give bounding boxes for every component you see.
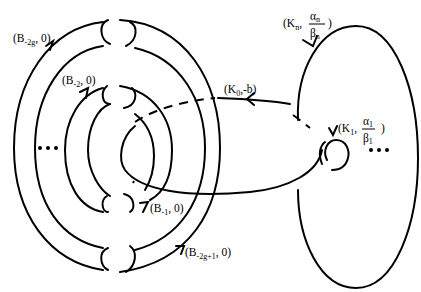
svg-text:αn: αn	[310, 10, 320, 24]
bottom-clasp-right	[126, 246, 135, 272]
k0-dashed-segment	[135, 98, 215, 122]
k0-dash-mark	[133, 181, 134, 183]
third-loop-left-arc	[65, 88, 103, 212]
label-b-neg2g1: (B-2g+1, 0)	[185, 246, 231, 261]
label-kn: (Kn, αn βn )	[283, 10, 332, 41]
left-ellipsis	[38, 146, 58, 150]
svg-text:): )	[328, 17, 332, 30]
outer-loop-left-arc	[14, 22, 103, 270]
fourth-loop-left-arc	[88, 104, 110, 196]
outer-link-components	[14, 20, 220, 272]
label-k1: (K1, α1 β1 )	[338, 115, 385, 146]
svg-text:): )	[381, 122, 385, 135]
k1-direction-arrow	[329, 126, 337, 135]
surgery-diagram: (B-2g, 0) (B-2, 0) (B-1, 0) (B-2g+1, 0) …	[0, 0, 421, 292]
k1-loop	[325, 140, 348, 170]
b-neg2-arrow	[80, 88, 88, 98]
svg-text:α1: α1	[363, 115, 373, 129]
svg-text:β1: β1	[363, 132, 373, 146]
top-clasp-left	[101, 20, 110, 44]
svg-text:βn: βn	[310, 27, 320, 41]
inner-top-clasp-right	[124, 88, 135, 108]
inner-bottom-clasp-left	[103, 196, 108, 212]
svg-text:(K1,: (K1,	[338, 122, 357, 137]
svg-text:(Kn,: (Kn,	[283, 17, 302, 32]
kn-ellipse	[298, 26, 418, 288]
label-b-neg2: (B-2, 0)	[62, 74, 96, 89]
label-b-neg2g: (B-2g, 0)	[13, 32, 51, 47]
right-ellipsis	[369, 148, 389, 152]
third-loop-right-arc	[120, 86, 172, 200]
label-b-neg1: (B-1, 0)	[150, 202, 184, 217]
top-clasp-right	[126, 22, 136, 46]
kn-component	[298, 26, 418, 288]
inner-top-clasp-left	[103, 86, 110, 104]
bottom-clasp-left	[101, 248, 108, 270]
second-loop-right-arc	[135, 48, 205, 250]
inner-bottom-clasp-right	[124, 194, 133, 212]
fourth-loop-right-arc	[135, 114, 154, 190]
b-neg1-arrow	[140, 202, 148, 212]
k0-upper-solid	[218, 98, 290, 104]
k0-dashed-right	[293, 115, 310, 128]
